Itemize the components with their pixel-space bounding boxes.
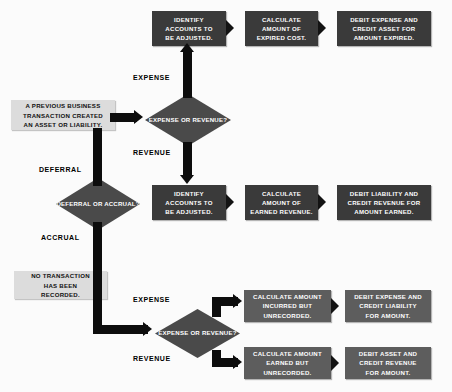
box-line: BE ADJUSTED. [165, 33, 212, 42]
box-line: DEBIT ASSET AND [359, 349, 417, 358]
box-line: CREDIT LIABILITY [354, 301, 422, 310]
arrow-right-icon [233, 355, 242, 369]
diamond-line: REVENUE? [202, 329, 237, 336]
box-line: DEBIT LIABILITY AND [348, 189, 421, 198]
arrow-right-icon [226, 194, 234, 210]
arrow-right-icon [318, 194, 326, 210]
box-line: CREDIT REVENUE FOR [348, 198, 421, 207]
box-line: BE ADJUSTED. [165, 207, 212, 216]
box-line: EARNED BUT [253, 358, 322, 367]
arrow-down-icon [180, 175, 194, 184]
branch-label-revenue-top: REVENUE [133, 149, 171, 156]
diamond-line: OR [181, 116, 191, 123]
diamond-line: EXPENSE [158, 329, 188, 336]
branch-label-accrual: ACCRUAL [41, 234, 79, 241]
connector-decision2-accrual-down [93, 222, 102, 330]
process-box-debit-liability-credit-revenue: DEBIT LIABILITY AND CREDIT REVENUE FOR A… [337, 185, 431, 220]
box-line: EARNED REVENUE. [250, 207, 312, 216]
connector-accrual-to-decision3 [93, 325, 148, 334]
arrow-right-icon [143, 322, 152, 336]
box-line: AMOUNT EARNED. [348, 207, 421, 216]
process-box-debit-expense-credit-asset: DEBIT EXPENSE AND CREDIT ASSET FOR AMOUN… [337, 11, 431, 46]
box-line: IDENTIFY [165, 189, 212, 198]
box-line: FOR AMOUNT. [354, 311, 422, 320]
box-line: CALCULATE AMOUNT [253, 349, 322, 358]
diamond-line: DEFERRAL [56, 200, 91, 207]
arrow-up-icon [180, 43, 194, 52]
box-line: IDENTIFY [165, 15, 212, 24]
flowchart-canvas: IDENTIFY ACCOUNTS TO BE ADJUSTED. CALCUL… [0, 0, 452, 392]
box-line: CALCULATE AMOUNT [253, 292, 322, 301]
box-line: CALCULATE [257, 15, 307, 24]
branch-label-revenue-bottom: REVENUE [133, 355, 171, 362]
process-box-calculate-earned-unrecorded: CALCULATE AMOUNT EARNED BUT UNRECORDED. [244, 347, 331, 379]
box-line: ACCOUNTS TO [165, 24, 212, 33]
decision-diamond-expense-or-revenue-top: EXPENSE OR REVENUE? [145, 94, 231, 146]
process-box-identify-accounts-expense: IDENTIFY ACCOUNTS TO BE ADJUSTED. [152, 11, 226, 46]
box-line: TRANSACTION CREATED [23, 111, 103, 120]
box-line: HAS BEEN [31, 281, 90, 290]
branch-label-expense-top: EXPENSE [133, 74, 170, 81]
connector-decision1-to-revenue-row [183, 142, 192, 178]
diamond-line: ACCRUAL? [104, 200, 139, 207]
box-line: RECORDED. [31, 290, 90, 299]
box-line: FOR AMOUNT. [359, 368, 417, 377]
box-line: UNRECORDED. [253, 311, 322, 320]
box-line: AMOUNT OF [250, 198, 312, 207]
process-box-calculate-incurred-unrecorded: CALCULATE AMOUNT INCURRED BUT UNRECORDED… [244, 290, 331, 322]
box-line: A PREVIOUS BUSINESS [23, 101, 103, 110]
diamond-line: REVENUE? [192, 116, 227, 123]
connector-start1-to-decision2 [93, 128, 102, 186]
process-box-identify-accounts-revenue: IDENTIFY ACCOUNTS TO BE ADJUSTED. [152, 185, 226, 220]
arrow-right-icon [233, 294, 242, 308]
box-line: DEBIT EXPENSE AND [350, 15, 418, 24]
process-box-calculate-expired-cost: CALCULATE AMOUNT OF EXPIRED COST. [245, 11, 318, 46]
process-box-calculate-earned-revenue: CALCULATE AMOUNT OF EARNED REVENUE. [245, 185, 318, 220]
arrow-right-icon [226, 20, 234, 36]
box-line: INCURRED BUT [253, 301, 322, 310]
connector-start1-to-decision1 [110, 113, 137, 122]
box-line: AMOUNT OF [257, 24, 307, 33]
arrow-right-icon [134, 110, 143, 124]
box-line: UNRECORDED. [253, 368, 322, 377]
box-line: NO TRANSACTION [31, 271, 90, 280]
diamond-line: OR [93, 200, 103, 207]
box-line: AN ASSET OR LIABILITY. [23, 120, 103, 129]
box-line: CALCULATE [250, 189, 312, 198]
diamond-line: OR [190, 329, 200, 336]
process-box-debit-expense-credit-liability: DEBIT EXPENSE AND CREDIT LIABILITY FOR A… [345, 290, 431, 322]
box-line: DEBIT EXPENSE AND [354, 292, 422, 301]
box-line: CREDIT ASSET FOR [350, 24, 418, 33]
box-line: AMOUNT EXPIRED. [350, 33, 418, 42]
decision-diamond-expense-or-revenue-bottom: EXPENSE OR REVENUE? [155, 309, 240, 358]
box-line: ACCOUNTS TO [165, 198, 212, 207]
process-box-debit-asset-credit-revenue: DEBIT ASSET AND CREDIT REVENUE FOR AMOUN… [345, 347, 431, 379]
start-box-previous-transaction: A PREVIOUS BUSINESS TRANSACTION CREATED … [11, 100, 115, 130]
box-line: EXPIRED COST. [257, 33, 307, 42]
branch-label-deferral: DEFERRAL [39, 166, 82, 173]
arrow-right-icon [331, 298, 339, 314]
connector-decision1-to-expense-row [183, 50, 192, 98]
box-line: CREDIT REVENUE [359, 358, 417, 367]
arrow-right-icon [318, 20, 326, 36]
diamond-line: EXPENSE [149, 116, 179, 123]
arrow-right-icon [331, 355, 339, 371]
branch-label-expense-bottom: EXPENSE [133, 296, 170, 303]
